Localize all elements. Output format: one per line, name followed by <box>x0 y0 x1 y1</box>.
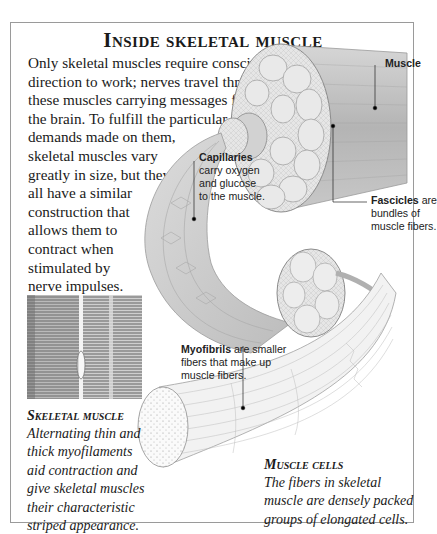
caption-title: Muscle cells <box>264 457 413 473</box>
label-fascicles: Fascicles are bundles of muscle fibers. <box>371 194 437 233</box>
caption-muscle-cells: Muscle cells The fibers in skeletal musc… <box>264 457 413 528</box>
caption-skeletal-muscle: Skeletal muscle Alternating thin and thi… <box>27 408 144 534</box>
label-capillaries: Capillaries carry oxygen and glucose to … <box>199 151 265 203</box>
label-muscle: Muscle <box>385 57 421 70</box>
skeletal-muscle-micrograph <box>27 295 142 399</box>
infographic-frame: Inside skeletal muscle Only skeletal mus… <box>10 22 414 523</box>
label-myofibrils: Myofibrils are smaller fibers that make … <box>181 343 286 382</box>
caption-title: Skeletal muscle <box>27 408 144 424</box>
caption-body: The fibers in skeletal muscle are densel… <box>264 475 413 527</box>
caption-body: Alternating thin and thick myofilaments … <box>27 426 144 533</box>
